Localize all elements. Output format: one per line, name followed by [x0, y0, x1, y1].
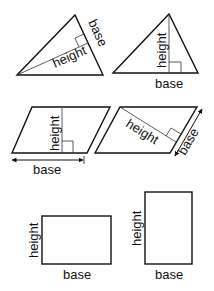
- base-label: base: [33, 162, 61, 177]
- triangle-1: height base: [17, 15, 111, 75]
- height-label: height: [154, 32, 169, 68]
- triangle-2: height base: [113, 14, 198, 91]
- parallelogram-2: height base: [95, 107, 202, 158]
- height-label: height: [50, 42, 89, 70]
- right-angle-marker: [62, 141, 73, 153]
- right-angle-marker: [166, 128, 181, 136]
- height-label: height: [129, 210, 144, 246]
- rectangle-1: height base: [26, 216, 111, 282]
- rectangle-2: height base: [129, 192, 192, 282]
- right-angle-marker: [169, 62, 181, 73]
- shapes-diagram: height base height base height base heig…: [0, 0, 214, 291]
- base-label: base: [63, 267, 91, 282]
- base-label: base: [155, 267, 183, 282]
- height-label: height: [47, 115, 62, 151]
- base-label: base: [155, 76, 183, 91]
- base-label: base: [175, 126, 202, 158]
- height-label: height: [26, 222, 41, 258]
- parallelogram-1: height base: [12, 107, 110, 177]
- height-label: height: [123, 116, 161, 148]
